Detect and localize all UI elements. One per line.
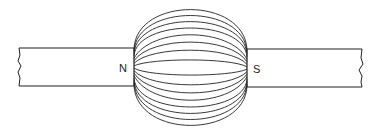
- field-lines: [134, 10, 247, 126]
- south-pole-label: S: [253, 63, 260, 75]
- field-line: [134, 60, 247, 67]
- right-break-line: [359, 49, 363, 87]
- right-magnet: S: [247, 49, 363, 87]
- north-pole-label: N: [119, 62, 127, 74]
- left-break-line: [18, 48, 21, 86]
- field-line: [134, 73, 247, 93]
- magnet-field-diagram: N S: [0, 0, 379, 131]
- left-magnet: N: [18, 48, 134, 86]
- field-line: [134, 42, 247, 62]
- field-line: [134, 68, 247, 75]
